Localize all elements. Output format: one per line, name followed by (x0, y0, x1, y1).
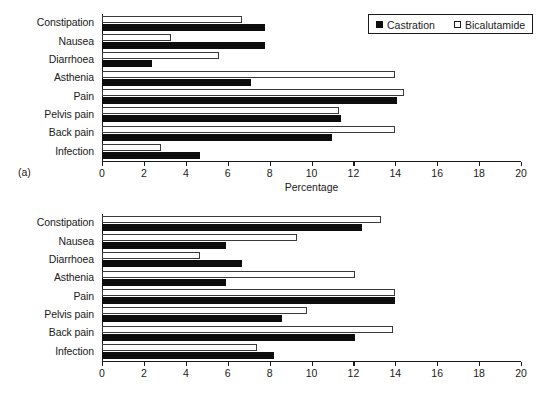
legend: CastrationBicalutamide (368, 14, 533, 34)
bar-castration-pelvis-pain (102, 315, 282, 322)
x-axis-tick-label: 16 (422, 167, 452, 179)
bar-castration-nausea (102, 42, 265, 49)
x-axis-tick (353, 162, 354, 166)
category-label: Back pain (0, 327, 94, 338)
panel-b-category-labels: ConstipationNauseaDiarrhoeaAstheniaPainP… (0, 214, 98, 361)
bar-bicalutamide-pelvis-pain (102, 107, 339, 114)
open-square-icon (454, 21, 461, 28)
x-axis-tick (521, 162, 522, 166)
x-axis-tick (228, 162, 229, 166)
x-axis-tick-label: 2 (129, 167, 159, 179)
bar-bicalutamide-constipation (102, 16, 242, 23)
bar-castration-infection (102, 152, 200, 159)
panel-a-plot-area: 02468101214161820 (102, 14, 521, 161)
bar-bicalutamide-pain (102, 289, 395, 296)
x-axis-tick-label: 4 (171, 367, 201, 379)
category-label: Nausea (0, 36, 94, 47)
x-axis-tick (395, 162, 396, 166)
category-label: Asthenia (0, 272, 94, 283)
figure-bar-charts: ConstipationNauseaDiarrhoeaAstheniaPainP… (0, 0, 544, 414)
bar-castration-diarrhoea (102, 60, 152, 67)
bar-bicalutamide-constipation (102, 216, 381, 223)
bar-castration-asthenia (102, 79, 251, 86)
panel-b-plot-area: 02468101214161820 (102, 214, 521, 361)
x-axis-tick-label: 6 (213, 167, 243, 179)
x-axis-tick-label: 18 (464, 367, 494, 379)
x-axis-tick-label: 20 (506, 367, 536, 379)
panel-a-category-labels: ConstipationNauseaDiarrhoeaAstheniaPainP… (0, 14, 98, 161)
x-axis-tick (270, 362, 271, 366)
category-label: Pain (0, 91, 94, 102)
bar-castration-nausea (102, 242, 226, 249)
legend-label: Castration (387, 19, 435, 31)
category-label: Pelvis pain (0, 309, 94, 320)
x-axis-tick-label: 4 (171, 167, 201, 179)
x-axis-tick (437, 162, 438, 166)
bar-castration-back-pain (102, 134, 332, 141)
x-axis-tick-label: 16 (422, 367, 452, 379)
x-axis-tick (270, 162, 271, 166)
x-axis-tick (144, 362, 145, 366)
category-label: Diarrhoea (0, 254, 94, 265)
category-label: Back pain (0, 127, 94, 138)
bar-bicalutamide-nausea (102, 234, 297, 241)
bar-castration-asthenia (102, 279, 226, 286)
bar-bicalutamide-infection (102, 144, 161, 151)
x-axis-tick-label: 12 (338, 367, 368, 379)
bar-bicalutamide-nausea (102, 34, 171, 41)
x-axis-tick-label: 20 (506, 167, 536, 179)
bar-bicalutamide-pain (102, 89, 404, 96)
filled-square-icon (376, 21, 383, 28)
category-label: Infection (0, 346, 94, 357)
bar-castration-back-pain (102, 334, 355, 341)
bar-bicalutamide-asthenia (102, 271, 355, 278)
bar-castration-pain (102, 297, 395, 304)
bar-bicalutamide-diarrhoea (102, 252, 200, 259)
legend-entry-castration: Castration (376, 18, 435, 31)
x-axis-tick (521, 362, 522, 366)
x-axis-tick (144, 162, 145, 166)
x-axis-tick (102, 162, 103, 166)
x-axis-tick (186, 362, 187, 366)
x-axis-tick-label: 10 (297, 167, 327, 179)
category-label: Pain (0, 291, 94, 302)
x-axis-tick-label: 6 (213, 367, 243, 379)
panel-a-x-axis-title: Percentage (102, 181, 521, 193)
category-label: Infection (0, 146, 94, 157)
bar-castration-pelvis-pain (102, 115, 341, 122)
panel-a: ConstipationNauseaDiarrhoeaAstheniaPainP… (0, 0, 544, 200)
panel-a-tag: (a) (18, 166, 31, 178)
x-axis-tick (437, 362, 438, 366)
x-axis-tick (353, 362, 354, 366)
x-axis-tick (186, 162, 187, 166)
x-axis-tick (312, 362, 313, 366)
bar-castration-constipation (102, 224, 362, 231)
x-axis-tick (312, 162, 313, 166)
bar-bicalutamide-back-pain (102, 326, 393, 333)
legend-entry-bicalutamide: Bicalutamide (454, 18, 525, 31)
x-axis-tick-label: 2 (129, 367, 159, 379)
x-axis-tick-label: 12 (338, 167, 368, 179)
bar-bicalutamide-back-pain (102, 126, 395, 133)
panel-b: ConstipationNauseaDiarrhoeaAstheniaPainP… (0, 200, 544, 414)
category-label: Asthenia (0, 72, 94, 83)
x-axis-tick (395, 362, 396, 366)
bar-bicalutamide-asthenia (102, 71, 395, 78)
x-axis-tick (228, 362, 229, 366)
bar-bicalutamide-infection (102, 344, 257, 351)
category-label: Diarrhoea (0, 54, 94, 65)
x-axis-tick (479, 362, 480, 366)
bar-bicalutamide-pelvis-pain (102, 307, 307, 314)
bar-castration-pain (102, 97, 397, 104)
x-axis-tick-label: 14 (380, 367, 410, 379)
category-label: Pelvis pain (0, 109, 94, 120)
bar-castration-diarrhoea (102, 260, 242, 267)
category-label: Constipation (0, 217, 94, 228)
category-label: Constipation (0, 17, 94, 28)
x-axis-tick (479, 162, 480, 166)
x-axis-tick-label: 8 (255, 167, 285, 179)
x-axis-tick-label: 0 (87, 367, 117, 379)
x-axis-tick-label: 18 (464, 167, 494, 179)
category-label: Nausea (0, 236, 94, 247)
x-axis-tick-label: 10 (297, 367, 327, 379)
